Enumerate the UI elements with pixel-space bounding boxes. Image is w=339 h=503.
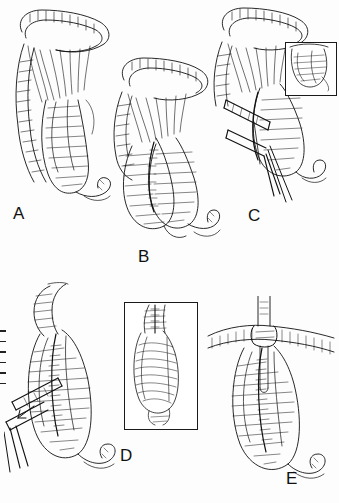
panel-d-illustration [4,282,126,482]
panel-label-c: C [248,206,261,226]
panel-label-e: E [286,469,298,489]
margin-tick [0,330,6,332]
panel-label-a: A [13,204,25,224]
margin-tick [0,372,6,374]
panel-c-inset-frame [285,42,337,96]
margin-tick [0,341,6,343]
panel-e-illustration [204,296,339,486]
figure-container: A [0,0,339,503]
margin-tick [0,351,6,353]
panel-label-d: D [120,446,133,466]
margin-tick [0,362,6,364]
panel-label-b: B [138,247,150,267]
panel-d-inset-frame [124,302,198,430]
margin-tick-marks [0,330,6,450]
panel-c-illustration [208,4,339,209]
margin-tick [0,383,6,385]
